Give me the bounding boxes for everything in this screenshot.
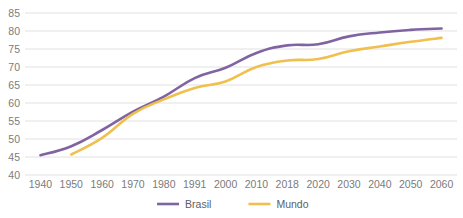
x-tick-label: 1970 (121, 178, 145, 190)
x-tick-label: 1991 (183, 178, 207, 190)
x-tick-label: 2050 (399, 178, 423, 190)
x-tick-label: 2030 (337, 178, 361, 190)
y-tick-label: 40 (8, 169, 20, 181)
x-tick-label: 1940 (29, 178, 53, 190)
x-tick-label: 2000 (214, 178, 238, 190)
chart-canvas: 40455055606570758085 1940195019601970198… (0, 0, 463, 218)
y-tick-label: 60 (8, 97, 20, 109)
x-tick-label: 1950 (60, 178, 84, 190)
y-tick-label: 70 (8, 61, 20, 73)
x-tick-label: 2020 (306, 178, 330, 190)
line-chart: 40455055606570758085 1940195019601970198… (0, 0, 463, 218)
legend-label-brasil: Brasil (185, 198, 211, 210)
x-tick-label: 1980 (152, 178, 176, 190)
y-tick-label: 65 (8, 79, 20, 91)
legend-label-mundo: Mundo (276, 198, 308, 210)
y-tick-label: 50 (8, 133, 20, 145)
x-tick-label: 1960 (90, 178, 114, 190)
y-tick-label: 55 (8, 115, 20, 127)
y-tick-label: 85 (8, 7, 20, 19)
y-tick-label: 80 (8, 25, 20, 37)
y-tick-label: 45 (8, 151, 20, 163)
x-tick-label: 2010 (245, 178, 269, 190)
y-tick-label: 75 (8, 43, 20, 55)
x-tick-label: 2040 (368, 178, 392, 190)
x-tick-label: 2060 (430, 178, 454, 190)
x-tick-label: 2018 (276, 178, 300, 190)
